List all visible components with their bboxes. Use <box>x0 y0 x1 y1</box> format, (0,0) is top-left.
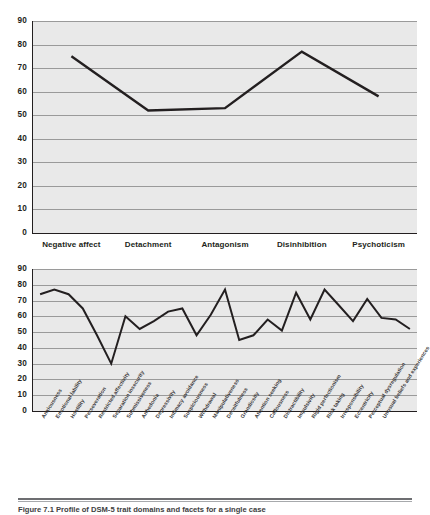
chart-facet-profile: 0102030405060708090 AnxiousnessEmotional… <box>0 255 430 495</box>
caption-divider-thin <box>18 501 412 502</box>
caption-divider <box>18 498 412 500</box>
figure-caption: Figure 7.1 Profile of DSM-5 trait domain… <box>18 505 418 515</box>
x-axis-tick-label: Psychoticism <box>319 240 430 249</box>
data-line <box>40 290 410 364</box>
line-series-top <box>0 0 430 250</box>
chart-domain-profile: 0102030405060708090 Negative affectDetac… <box>0 0 430 250</box>
data-line <box>71 52 378 111</box>
line-series-bottom <box>0 255 430 495</box>
